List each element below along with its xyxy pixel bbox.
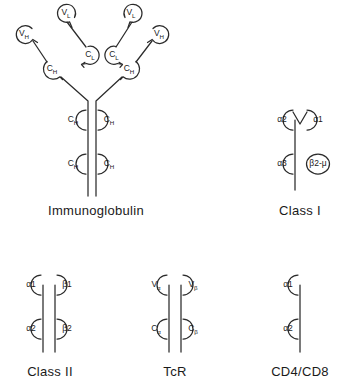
panel-tcr: Vα Vβ Cα Cβ TcR bbox=[151, 275, 198, 379]
ig-domain-CH1-left: CH bbox=[43, 62, 62, 80]
class-ii-domain-b2: β2 bbox=[57, 319, 72, 339]
panel-immunoglobulin: VL VH CL CH VL VH CL bbox=[16, 4, 168, 218]
class-i-domain-b2m: β2-μ bbox=[307, 154, 330, 174]
class-i-domain-a2-label: α2 bbox=[277, 114, 287, 124]
tcr-domain-Cbeta-label: Cβ bbox=[188, 323, 198, 334]
tcr-domain-Cbeta: Cβ bbox=[183, 319, 198, 339]
ig-right-heavy-chain-line bbox=[136, 41, 152, 62]
caption-class-i: Class I bbox=[279, 203, 321, 218]
immunoglobulin-superfamily-diagram: VL VH CL CH VL VH CL bbox=[0, 0, 341, 383]
class-i-domain-a1-label: α1 bbox=[313, 114, 323, 124]
ig-domain-CL-right-label: CL bbox=[109, 49, 119, 60]
class-ii-domain-a2-label: α2 bbox=[26, 323, 36, 333]
class-ii-domain-b2-label: β2 bbox=[62, 323, 72, 333]
ig-domain-VH-left-label: VH bbox=[19, 28, 29, 39]
cd4cd8-domain-a2-label: α2 bbox=[283, 323, 293, 333]
panel-class-ii: α1 β1 α2 β2 Class II bbox=[26, 275, 73, 379]
class-i-domain-a2: α2 bbox=[277, 110, 293, 130]
tcr-domain-Calpha-label: Cα bbox=[151, 323, 161, 334]
tcr-domain-Vbeta: Vβ bbox=[183, 275, 198, 295]
ig-domain-CH2-left: CH bbox=[68, 110, 86, 130]
ig-domain-CL-left: CL bbox=[82, 46, 100, 67]
panel-cd4-cd8: α1 α2 CD4/CD8 bbox=[271, 275, 329, 379]
ig-domain-VH-left: VH bbox=[16, 26, 37, 44]
tcr-domain-Calpha: Cα bbox=[151, 319, 167, 339]
class-ii-domain-b1-label: β1 bbox=[62, 279, 72, 289]
ig-left-heavy-hinge-line bbox=[61, 77, 88, 196]
panel-class-i: α2 α1 α3 β2-μ Class I bbox=[277, 110, 329, 218]
class-ii-domain-a1-label: α1 bbox=[26, 279, 36, 289]
ig-domain-VH-right-label: VH bbox=[154, 28, 164, 39]
ig-domain-CH3-right: CH bbox=[98, 154, 114, 174]
ig-domain-VH-right: VH bbox=[148, 26, 169, 44]
class-ii-domain-a2: α2 bbox=[26, 319, 41, 339]
caption-class-ii: Class II bbox=[27, 364, 73, 379]
cd4cd8-domain-a1-label: α1 bbox=[283, 279, 293, 289]
cd4cd8-domain-a2: α2 bbox=[283, 319, 298, 339]
ig-right-heavy-hinge-line bbox=[96, 77, 122, 196]
ig-domain-CH1-left-label: CH bbox=[47, 63, 58, 74]
ig-domain-CH1-right: CH bbox=[121, 62, 140, 80]
ig-right-light-chain-line bbox=[116, 22, 132, 47]
class-ii-domain-b1: β1 bbox=[57, 275, 72, 295]
ig-domain-VL-left: VL bbox=[58, 4, 76, 27]
ig-domain-VL-left-label: VL bbox=[61, 7, 71, 18]
caption-cd4-cd8: CD4/CD8 bbox=[271, 364, 329, 379]
caption-tcr: TcR bbox=[163, 364, 186, 379]
ig-domain-CH3-left: CH bbox=[68, 154, 86, 174]
class-i-domain-a1: α1 bbox=[307, 110, 323, 130]
ig-domain-CL-right: CL bbox=[105, 46, 123, 67]
ig-left-heavy-chain-line bbox=[33, 41, 47, 62]
ig-domain-CH1-right-label: CH bbox=[124, 63, 135, 74]
cd4cd8-domain-a1: α1 bbox=[283, 275, 298, 295]
ig-domain-VL-right: VL bbox=[124, 4, 142, 27]
tcr-domain-Valpha: Vα bbox=[151, 275, 167, 295]
ig-domain-CH2-right: CH bbox=[98, 110, 114, 130]
caption-immunoglobulin: Immunoglobulin bbox=[48, 203, 144, 218]
class-i-domain-a3-label: α3 bbox=[277, 158, 287, 168]
tcr-domain-Valpha-label: Vα bbox=[151, 279, 161, 290]
class-ii-domain-a1: α1 bbox=[26, 275, 41, 295]
class-i-domain-a3: α3 bbox=[277, 154, 293, 174]
ig-domain-CH2-right-label: CH bbox=[104, 114, 115, 125]
ig-domain-CL-left-label: CL bbox=[85, 49, 95, 60]
ig-domain-VL-right-label: VL bbox=[126, 7, 136, 18]
ig-left-light-chain-line bbox=[67, 22, 86, 47]
ig-domain-CH3-right-label: CH bbox=[104, 158, 115, 169]
class-i-domain-b2m-label: β2-μ bbox=[309, 158, 326, 168]
tcr-domain-Vbeta-label: Vβ bbox=[188, 279, 198, 290]
